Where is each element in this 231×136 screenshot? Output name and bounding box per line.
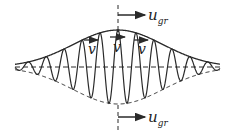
- envelope-lower: [15, 70, 220, 104]
- group-velocity-label-bottom: ugr: [148, 110, 168, 128]
- wave-packet-svg: [0, 0, 231, 136]
- wave-packet-diagram: ugr ugr v v v: [0, 0, 231, 136]
- phase-velocity-label-3: v: [138, 42, 146, 56]
- phase-velocity-label-1: v: [88, 42, 96, 56]
- group-velocity-label-top: ugr: [148, 8, 168, 26]
- phase-velocity-label-2: v: [113, 40, 121, 54]
